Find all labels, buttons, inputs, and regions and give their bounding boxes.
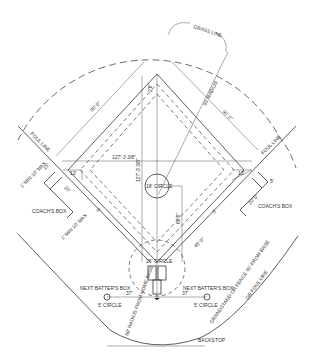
on-deck-dist-right: 37' xyxy=(182,290,189,296)
three-ft-left-label: 3' xyxy=(95,206,102,213)
base-path-dim-right: 90' 0" xyxy=(221,108,234,121)
diag-horizontal-label: 127'-3 3/8" xyxy=(112,154,136,160)
foul-line-left xyxy=(18,126,150,262)
circle-left-label: 5' CIRCLE xyxy=(98,302,122,308)
radius-95-label: 95' RADIUS xyxy=(202,79,219,106)
backstop-radius-label: 60' RADIUS FROM HOME BASE xyxy=(123,264,154,336)
three-ft-right-label: 3' xyxy=(210,208,217,215)
coach-dim-left-label: 20' xyxy=(63,184,72,193)
coach-box-left-label: COACH'S BOX xyxy=(32,208,67,214)
baseball-field-diagram: GRASS LINE 90' 0" 90' 0" FOUL LINE FOUL … xyxy=(0,0,313,363)
diag-vertical-label: 127'-3 3/8" xyxy=(135,158,141,182)
next-batter-box-left-label: NEXT BATTER'S BOX xyxy=(80,285,131,291)
backstop-label: BACKSTOP xyxy=(198,337,226,343)
small-dim-right-label: 5' xyxy=(270,178,274,184)
home-circle-label: 26' CIRCLE xyxy=(146,258,173,264)
first-base-line-dim: 45' 0" xyxy=(192,235,205,248)
coach-offset-left-label: 13' xyxy=(70,170,77,176)
home-plate xyxy=(154,298,160,300)
foul-line-right xyxy=(164,126,296,262)
pitchers-circle-label: 18' CIRCLE xyxy=(146,183,173,189)
coach-offset-right-label: 13' xyxy=(238,170,245,176)
batters-box-right xyxy=(158,266,166,280)
grass-line-label: GRASS LINE xyxy=(193,23,224,38)
coach-min-max-left-top: 1' MIN 10' MAX xyxy=(18,160,47,189)
on-deck-dist-left: 37' xyxy=(126,290,133,296)
next-batter-box-right-label: NEXT BATTER'S BOX xyxy=(183,285,234,291)
coach-box-right-label: COACH'S BOX xyxy=(258,203,293,209)
base-path-dim-left: 90' 0" xyxy=(88,99,101,112)
circle-right-label: 5' CIRCLE xyxy=(194,302,218,308)
base-offset-label: 2'6" xyxy=(147,83,153,92)
pitch-distance-label: 60'6" xyxy=(175,213,181,224)
dimension-line-left xyxy=(56,62,144,156)
dimension-line-right xyxy=(172,62,258,150)
radius-95-line xyxy=(158,52,228,195)
coach-min-max-left-bottom: 1' MIN 10' MAX xyxy=(59,212,88,241)
